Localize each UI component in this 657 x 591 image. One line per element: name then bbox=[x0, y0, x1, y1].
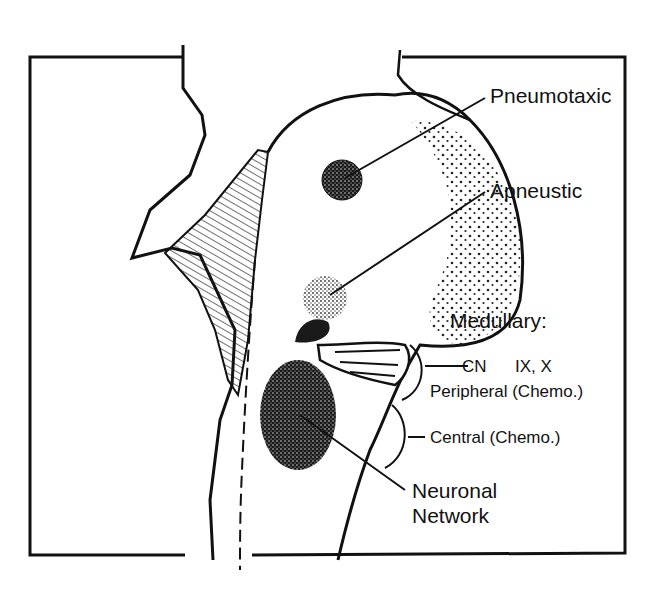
label-peripheral: Peripheral (Chemo.) bbox=[430, 383, 583, 400]
label-medullary: Medullary: bbox=[450, 310, 547, 331]
neuronal-network bbox=[260, 360, 336, 470]
label-pneumotaxic: Pneumotaxic bbox=[490, 85, 611, 106]
pneumotaxic-center bbox=[322, 160, 362, 200]
label-apneustic: Apneustic bbox=[490, 180, 582, 201]
label-central: Central (Chemo.) bbox=[430, 429, 560, 446]
hatched-region bbox=[165, 150, 268, 395]
label-cn: CN bbox=[462, 358, 487, 375]
label-network: Network bbox=[412, 505, 489, 526]
label-cn-numbers: IX, X bbox=[515, 358, 552, 375]
medullary-nucleus bbox=[295, 319, 330, 342]
label-neuronal: Neuronal bbox=[412, 480, 497, 501]
apneustic-center bbox=[303, 276, 347, 320]
